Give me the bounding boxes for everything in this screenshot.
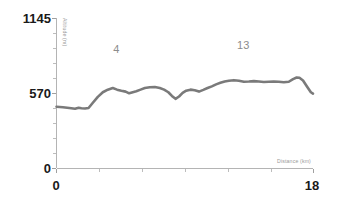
x-tick-label-max: 18 [305, 178, 319, 193]
y-tick-label-mid: 570 [29, 86, 51, 101]
x-axis-ticks [57, 169, 314, 173]
x-tick-label-min: 0 [52, 178, 59, 193]
chart-canvas: 1145 570 0 0 18 Altitude (m) Distance (k… [0, 0, 337, 205]
y-axis-title: Altitude (m) [62, 18, 68, 46]
elevation-profile-chart: 1145 570 0 0 18 Altitude (m) Distance (k… [0, 0, 337, 205]
waypoint-annotations: 413 [113, 39, 249, 55]
x-axis-title: Distance (km) [277, 158, 311, 164]
waypoint-label-4: 4 [113, 43, 119, 55]
elevation-line-series [57, 78, 314, 109]
y-tick-label-min: 0 [44, 161, 51, 176]
waypoint-label-13: 13 [237, 39, 249, 51]
y-axis-ticks [52, 19, 56, 169]
y-tick-label-max: 1145 [23, 11, 51, 26]
